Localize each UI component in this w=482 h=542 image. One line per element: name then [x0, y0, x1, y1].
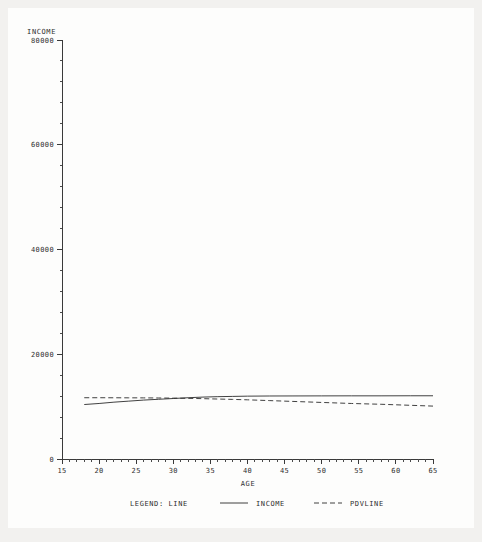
series-line-pdvline	[84, 398, 433, 406]
x-tick-label: 50	[317, 467, 326, 475]
x-axis-group: 1520253035404550556065 AGE	[57, 459, 437, 488]
legend-label-income: INCOME	[256, 500, 285, 508]
x-tick-label: 55	[354, 467, 363, 475]
x-tick-label: 25	[132, 467, 141, 475]
y-tick-label: 0	[49, 456, 54, 464]
x-tick-label: 30	[169, 467, 178, 475]
x-tick-label: 45	[280, 467, 289, 475]
x-axis-title: AGE	[241, 480, 255, 488]
x-axis-major-ticks	[62, 459, 433, 464]
y-tick-label: 20000	[31, 351, 54, 359]
x-tick-label: 15	[57, 467, 66, 475]
chart-figure: 020000400006000080000 INCOME 15202530354…	[8, 8, 474, 528]
legend: LEGEND: LINE INCOME PDVLINE	[130, 500, 384, 508]
y-tick-label: 60000	[31, 141, 54, 149]
y-axis-group: 020000400006000080000 INCOME	[27, 28, 62, 464]
y-axis-tick-labels: 020000400006000080000	[31, 37, 54, 464]
y-axis-title: INCOME	[27, 28, 56, 36]
chart-page: 020000400006000080000 INCOME 15202530354…	[0, 0, 482, 542]
x-axis-tick-labels: 1520253035404550556065	[57, 467, 437, 475]
data-series-group	[84, 396, 433, 406]
series-line-income	[84, 396, 433, 405]
legend-title: LEGEND: LINE	[130, 500, 188, 508]
x-tick-label: 65	[428, 467, 437, 475]
y-tick-label: 80000	[31, 37, 54, 45]
y-tick-label: 40000	[31, 246, 54, 254]
x-tick-label: 60	[391, 467, 400, 475]
x-tick-label: 20	[94, 467, 103, 475]
x-tick-label: 35	[206, 467, 215, 475]
line-chart: 020000400006000080000 INCOME 15202530354…	[8, 8, 474, 528]
x-tick-label: 40	[243, 467, 252, 475]
legend-label-pdvline: PDVLINE	[350, 500, 384, 508]
